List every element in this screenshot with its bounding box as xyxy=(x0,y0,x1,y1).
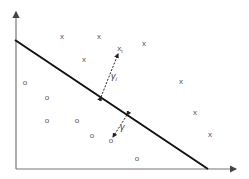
labels: γiγ xyxy=(111,71,125,132)
point-o-marker: o xyxy=(90,131,95,140)
point-o-marker: o xyxy=(75,116,80,125)
point-o-marker: o xyxy=(109,136,114,145)
point-o-marker: o xyxy=(45,116,50,125)
point-x-i-marker: xi xyxy=(117,44,122,53)
separator-line xyxy=(15,40,208,169)
point-o-marker: o xyxy=(135,154,140,163)
point-x-marker: x xyxy=(208,130,212,139)
axes xyxy=(16,12,236,169)
point-x-marker: x xyxy=(142,39,146,48)
point-x-marker: x xyxy=(60,32,64,41)
decision-boundary xyxy=(15,40,208,169)
class-o-points: ooooooo xyxy=(23,78,140,163)
point-o-marker: o xyxy=(45,93,50,102)
margin-diagram: xxxxxxxxi ooooooo γiγ xyxy=(0,0,249,179)
label-gamma: γ xyxy=(120,122,125,132)
point-x-marker: x xyxy=(193,108,197,117)
point-x-marker: x xyxy=(179,77,183,86)
point-x-marker: x xyxy=(82,55,86,64)
point-o-marker: o xyxy=(23,78,28,87)
point-x-marker: x xyxy=(97,32,101,41)
label-gamma-i: γi xyxy=(111,71,118,82)
